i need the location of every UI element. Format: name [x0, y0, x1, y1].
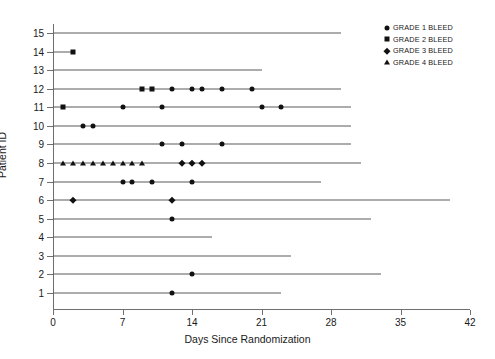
- grade-1-bleed-marker: [120, 105, 125, 110]
- patient-followup-line: [53, 255, 291, 256]
- x-axis-tick: [331, 310, 332, 315]
- grade-1-bleed-marker: [170, 290, 175, 295]
- y-axis-tick-label: 5: [38, 213, 44, 224]
- y-axis-tick-label: 1: [38, 287, 44, 298]
- grade-1-bleed-marker: [199, 86, 204, 91]
- patient-followup-line: [53, 33, 341, 34]
- x-axis-tick-label: 0: [50, 317, 56, 328]
- legend-item: GRADE 1 BLEED: [381, 22, 453, 34]
- grade-2-bleed-marker: [60, 105, 65, 110]
- grade-4-bleed-marker: [139, 161, 145, 166]
- legend-item-label: GRADE 3 BLEED: [393, 46, 453, 55]
- grade-1-bleed-marker: [279, 105, 284, 110]
- y-axis-tick-label: 14: [33, 46, 44, 57]
- x-axis-tick-label: 7: [120, 317, 126, 328]
- x-axis-title: Days Since Randomization: [0, 333, 495, 345]
- grade-1-bleed-marker: [190, 179, 195, 184]
- patient-followup-line: [53, 70, 262, 71]
- grade-4-bleed-marker: [80, 161, 86, 166]
- legend-item: GRADE 4 BLEED: [381, 57, 453, 69]
- grade-1-bleed-marker: [150, 179, 155, 184]
- grade-1-bleed-marker: [130, 179, 135, 184]
- x-axis-tick: [123, 310, 124, 315]
- grade-1-bleed-marker: [160, 105, 165, 110]
- grade-2-bleed-marker: [150, 86, 155, 91]
- legend-item-label: GRADE 1 BLEED: [393, 23, 453, 32]
- grade-1-bleed-marker: [170, 216, 175, 221]
- grade-1-bleed-marker: [120, 179, 125, 184]
- grade-3-bleed-marker: [199, 160, 205, 166]
- x-axis-tick: [192, 310, 193, 315]
- patient-followup-line: [53, 125, 351, 126]
- x-axis-tick: [470, 310, 471, 315]
- grade-2-bleed-marker: [140, 86, 145, 91]
- y-axis-title: Patient ID: [0, 132, 8, 178]
- grade-4-bleed-marker: [129, 161, 135, 166]
- x-axis-tick-label: 21: [256, 317, 267, 328]
- y-axis-tick-label: 15: [33, 28, 44, 39]
- grade-4-bleed-marker: [70, 161, 76, 166]
- legend-item-label: GRADE 2 BLEED: [393, 35, 453, 44]
- y-axis-tick-label: 4: [38, 232, 44, 243]
- legend-item: GRADE 3 BLEED: [381, 45, 453, 57]
- x-axis-tick-label: 42: [464, 317, 475, 328]
- circle-icon: [381, 22, 393, 33]
- grade-2-bleed-marker: [70, 49, 75, 54]
- patient-followup-line: [53, 200, 450, 201]
- y-axis-tick-label: 8: [38, 158, 44, 169]
- grade-4-bleed-marker: [100, 161, 106, 166]
- patient-followup-line: [53, 107, 351, 108]
- patient-followup-line: [53, 218, 371, 219]
- patient-followup-line: [53, 181, 321, 182]
- grade-4-bleed-marker: [90, 161, 96, 166]
- grade-1-bleed-marker: [90, 123, 95, 128]
- bleeding-event-timeline-chart: 123456789101112131415 Patient ID Days Si…: [0, 0, 495, 359]
- y-axis-tick-label: 2: [38, 269, 44, 280]
- x-axis-tick-label: 35: [395, 317, 406, 328]
- y-axis-tick-label: 6: [38, 195, 44, 206]
- grade-3-bleed-marker: [169, 197, 175, 203]
- triangle-icon: [381, 57, 393, 68]
- grade-4-bleed-marker: [110, 161, 116, 166]
- y-axis-tick-label: 11: [34, 102, 44, 113]
- grade-1-bleed-marker: [160, 142, 165, 147]
- legend-item: GRADE 2 BLEED: [381, 34, 453, 46]
- patient-followup-line: [53, 237, 212, 238]
- grade-1-bleed-marker: [180, 142, 185, 147]
- y-axis-tick-label: 3: [38, 250, 44, 261]
- grade-1-bleed-marker: [170, 86, 175, 91]
- grade-4-bleed-marker: [120, 161, 126, 166]
- x-axis-tick: [53, 310, 54, 315]
- grade-1-bleed-marker: [219, 86, 224, 91]
- grade-4-bleed-marker: [60, 161, 66, 166]
- diamond-icon: [381, 45, 393, 56]
- patient-followup-line: [53, 88, 341, 89]
- patient-followup-line: [53, 274, 381, 275]
- legend-item-label: GRADE 4 BLEED: [393, 58, 453, 67]
- x-axis-tick: [262, 310, 263, 315]
- grade-1-bleed-marker: [259, 105, 264, 110]
- grade-1-bleed-marker: [190, 86, 195, 91]
- y-axis-tick-label: 12: [33, 83, 44, 94]
- legend: GRADE 1 BLEEDGRADE 2 BLEEDGRADE 3 BLEEDG…: [381, 22, 453, 68]
- grade-1-bleed-marker: [80, 123, 85, 128]
- y-axis-tick-label: 13: [33, 65, 44, 76]
- x-axis-tick-label: 14: [186, 317, 197, 328]
- grade-1-bleed-marker: [219, 142, 224, 147]
- y-axis-tick-label: 7: [38, 176, 44, 187]
- patient-followup-line: [53, 292, 281, 293]
- grade-3-bleed-marker: [179, 160, 185, 166]
- y-axis-tick-label: 9: [38, 139, 44, 150]
- grade-1-bleed-marker: [190, 272, 195, 277]
- square-icon: [381, 34, 393, 45]
- grade-3-bleed-marker: [70, 197, 76, 203]
- x-axis-tick: [401, 310, 402, 315]
- grade-3-bleed-marker: [189, 160, 195, 166]
- patient-followup-line: [53, 144, 351, 145]
- y-axis-tick-label: 10: [33, 120, 44, 131]
- grade-1-bleed-marker: [249, 86, 254, 91]
- x-axis-tick-label: 28: [325, 317, 336, 328]
